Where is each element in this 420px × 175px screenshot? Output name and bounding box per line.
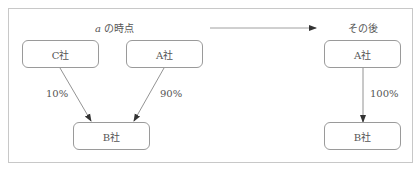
node-c-company: C社 — [22, 40, 99, 68]
node-label: B社 — [103, 129, 120, 144]
edge-label-a-b-after: 100% — [370, 88, 399, 99]
edge-label-a-b: 90% — [160, 88, 182, 99]
left-panel-title: a の時点 — [95, 20, 134, 35]
right-panel-title: その後 — [348, 20, 378, 35]
node-label: B社 — [354, 129, 371, 144]
node-label: C社 — [52, 47, 70, 62]
node-a-company: A社 — [126, 40, 203, 68]
node-label: A社 — [354, 47, 371, 62]
node-b-company: B社 — [73, 122, 150, 150]
title-suffix: の時点 — [101, 23, 134, 34]
edge-label-c-b: 10% — [46, 88, 68, 99]
node-a-company-after: A社 — [324, 40, 401, 68]
node-b-company-after: B社 — [324, 122, 401, 150]
node-label: A社 — [156, 47, 173, 62]
